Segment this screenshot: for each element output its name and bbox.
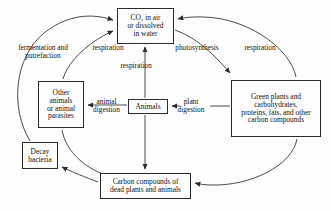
edge-label-plant-digestion: plant digestion [172, 98, 210, 113]
node-animals: Animals [128, 99, 168, 114]
edge-label-respiration-center: respiration [110, 62, 162, 70]
node-animals-label: Animals [133, 103, 162, 111]
edge-label-photosynthesis: photosynthesis [166, 44, 228, 52]
node-co2-label: CO₂ in air or dissolved in water [126, 14, 166, 38]
carbon-cycle-diagram: CO₂ in air or dissolved in water Other a… [0, 0, 331, 211]
node-green-plants: Green plants and carbohydrates, proteins… [231, 80, 321, 137]
node-dead-plants-animals: Carbon compounds of dead plants and anim… [100, 173, 191, 199]
node-other-animals: Other animals or animal parasites [38, 81, 84, 128]
edge-green-plants-to-dead-matter [195, 139, 297, 185]
edge-label-respiration-left: respiration [84, 44, 132, 52]
node-other-animals-label: Other animals or animal parasites [45, 89, 77, 120]
edge-other-animals-to-dead-matter [62, 130, 112, 177]
node-green-plants-label: Green plants and carbohydrates, proteins… [239, 93, 313, 124]
node-co2-in-air: CO₂ in air or dissolved in water [117, 8, 174, 44]
node-decay-bacteria: Decay bacteria [22, 142, 58, 169]
node-dead-plants-animals-label: Carbon compounds of dead plants and anim… [108, 178, 183, 194]
edge-label-respiration-right: respiration [236, 44, 284, 52]
node-decay-bacteria-label: Decay bacteria [26, 148, 53, 164]
edge-label-fermentation-putrefaction: fermentation and putrefaction [3, 44, 83, 59]
edge-label-animal-digestion: animal digestion [86, 98, 127, 113]
